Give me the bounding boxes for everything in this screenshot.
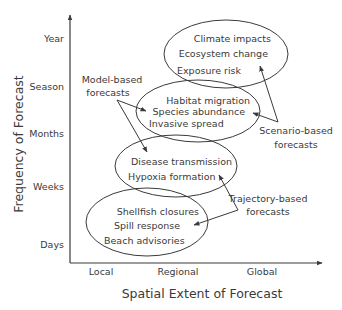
shellfish-labels: Shellfish closures Spill response Beach … [104,206,199,246]
habitat-labels: Habitat migration Species abundance Inva… [149,95,250,129]
climate-labels: Climate impacts Ecosystem change Exposur… [177,33,271,76]
callout-trajectory-based-line1: Trajectory-based [228,193,308,204]
x-tick-global: Global [247,266,277,277]
label-disease-transmission: Disease transmission [131,156,232,167]
x-axis-ticks: Local Regional Global [89,266,277,277]
callout-model-based: Model-based forecasts [82,74,143,98]
label-hypoxia-formation: Hypoxia formation [128,171,216,182]
label-invasive-spread: Invasive spread [149,118,224,129]
callout-model-based-line2: forecasts [86,87,129,98]
label-exposure-risk: Exposure risk [177,65,241,76]
arrow-trajectory-to-shellfish [194,210,238,225]
forecast-diagram: Year Season Months Weeks Days Frequency … [0,0,342,310]
y-axis-ticks: Year Season Months Weeks Days [29,33,64,250]
y-axis-title: Frequency of Forecast [11,75,26,213]
x-tick-local: Local [89,266,114,277]
label-spill-response: Spill response [114,220,180,231]
callout-model-based-line1: Model-based [82,74,143,85]
callout-scenario-based-line1: Scenario-based [259,125,333,136]
x-tick-regional: Regional [158,266,199,277]
callout-trajectory-based-line2: forecasts [246,206,289,217]
callout-scenario-based-line2: forecasts [274,139,317,150]
label-ecosystem-change: Ecosystem change [179,48,269,59]
y-tick-season: Season [30,81,64,92]
label-habitat-migration: Habitat migration [166,95,250,106]
callout-trajectory-based: Trajectory-based forecasts [228,193,308,217]
y-tick-days: Days [40,239,64,250]
disease-labels: Disease transmission Hypoxia formation [128,156,232,182]
arrow-model-to-habitat [117,100,146,111]
x-axis-title: Spatial Extent of Forecast [122,286,283,301]
y-tick-weeks: Weeks [33,181,64,192]
label-beach-advisories: Beach advisories [104,235,185,246]
label-species-abundance: Species abundance [153,106,246,117]
callout-scenario-based: Scenario-based forecasts [259,125,333,150]
y-tick-months: Months [29,128,64,139]
label-shellfish-closures: Shellfish closures [117,206,199,217]
label-climate-impacts: Climate impacts [194,33,271,44]
y-tick-year: Year [43,33,64,44]
